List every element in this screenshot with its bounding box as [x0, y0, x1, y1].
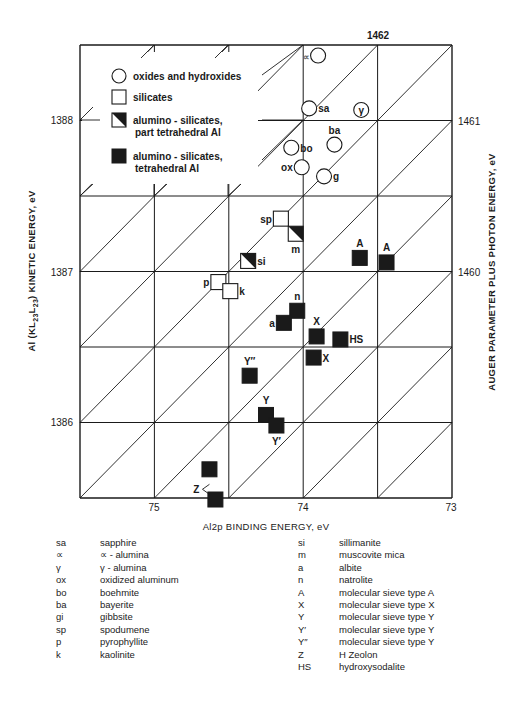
- data-point-label: sa: [318, 103, 330, 114]
- circle-marker-icon: [327, 137, 342, 152]
- filled-square-marker-icon: [276, 315, 291, 330]
- y-axis-label: Al (KL23L23) KINETIC ENERGY, eV: [26, 190, 39, 351]
- data-point-label: g: [333, 171, 339, 182]
- abbreviation-name: molecular sieve type X: [339, 599, 435, 611]
- abbreviation-code: Y: [298, 611, 339, 623]
- grid-stub: [262, 45, 303, 75]
- circle-marker-icon: [294, 160, 309, 175]
- circle-marker-icon: [112, 69, 126, 83]
- abbreviation-code: γ: [56, 562, 100, 574]
- abbreviation-list-right: sisillimanitemmuscovite micaaalbitennatr…: [298, 537, 435, 673]
- data-point: A: [379, 242, 394, 270]
- abbreviation-name: molecular sieve type Y: [339, 624, 434, 636]
- data-point: k: [223, 284, 246, 299]
- abbreviation-name: albite: [339, 562, 362, 574]
- x-tick-74: 74: [297, 502, 309, 513]
- data-point: sp: [260, 211, 288, 226]
- abbreviation-name: molecular sieve type Y: [339, 636, 434, 648]
- grid-stub: [228, 184, 241, 196]
- data-point: Y′: [269, 418, 284, 447]
- abbreviation-code: k: [56, 649, 100, 661]
- abbreviation-code: Z: [298, 649, 339, 661]
- filled-square-marker-icon: [202, 462, 217, 477]
- auger-parameter-line: [303, 121, 377, 197]
- auger-parameter-line: [378, 121, 452, 197]
- abbreviation-code: a: [298, 562, 339, 574]
- y-tick-1388: 1388: [51, 115, 74, 126]
- y2-axis-label: AUGER PARAMETER PLUS PHOTON ENERGY, eV: [486, 153, 497, 391]
- abbreviation-row: mmuscovite mica: [298, 549, 435, 561]
- data-point-label: si: [257, 256, 266, 267]
- data-point-label: γ: [358, 105, 364, 116]
- abbreviation-code: A: [298, 587, 339, 599]
- data-point-label: Z: [193, 484, 199, 495]
- abbreviation-row: Xmolecular sieve type X: [298, 599, 435, 611]
- data-point-label: ∝: [303, 52, 309, 62]
- data-point: X: [309, 316, 324, 344]
- abbreviation-row: ∝∝ - alumina: [56, 549, 179, 561]
- legend-label: oxides and hydroxides: [133, 71, 242, 82]
- auger-parameter-line: [154, 347, 228, 423]
- data-point-label: sp: [260, 214, 272, 225]
- auger-1460-label: 1460: [458, 267, 481, 278]
- data-point: [208, 492, 223, 507]
- grid-stub: [154, 184, 167, 196]
- data-point-label: HS: [349, 334, 363, 345]
- abbreviation-name: spodumene: [100, 624, 150, 636]
- abbreviation-row: ppyrophyllite: [56, 636, 179, 648]
- abbreviation-name: γ - alumina: [100, 562, 146, 574]
- data-point-label: X: [313, 316, 320, 327]
- abbreviation-name: gibbsite: [100, 611, 133, 623]
- circle-marker-icon: [317, 169, 332, 184]
- abbreviation-name: molecular sieve type A: [339, 587, 434, 599]
- data-point: g: [317, 169, 340, 184]
- data-point-label: k: [239, 286, 245, 297]
- auger-1461-label: 1461: [458, 116, 481, 127]
- filled-square-marker-icon: [290, 303, 305, 318]
- data-point: bo: [284, 140, 313, 155]
- abbreviation-row: boboehmite: [56, 587, 179, 599]
- abbreviation-row: Y′molecular sieve type Y: [298, 624, 435, 636]
- grid-stub: [262, 120, 303, 160]
- abbreviation-row: Y″molecular sieve type Y: [298, 636, 435, 648]
- data-point: γ: [354, 102, 369, 117]
- auger-parameter-line: [378, 423, 452, 499]
- filled-square-marker-icon: [379, 255, 394, 270]
- abbreviation-row: γγ - alumina: [56, 562, 179, 574]
- data-point: ∝: [303, 48, 326, 63]
- abbreviation-name: boehmite: [100, 587, 139, 599]
- open-square-marker-icon: [273, 211, 288, 226]
- abbreviation-row: nnatrolite: [298, 574, 435, 586]
- open-square-marker-icon: [112, 90, 126, 104]
- circle-marker-icon: [284, 140, 299, 155]
- filled-square-marker-icon: [352, 250, 367, 265]
- abbreviation-name: hydroxysodalite: [339, 661, 405, 673]
- filled-square-marker-icon: [306, 350, 321, 365]
- circle-marker-icon: [302, 101, 317, 116]
- legend-label: alumino - silicates,: [133, 115, 223, 126]
- abbreviation-row: sisillimanite: [298, 537, 435, 549]
- abbreviation-row: HShydroxysodalite: [298, 661, 435, 673]
- auger-parameter-line: [80, 347, 154, 423]
- abbreviation-name: ∝ - alumina: [100, 549, 149, 561]
- data-point-label: a: [269, 318, 275, 329]
- data-point-label: p: [203, 277, 209, 288]
- abbreviation-code: p: [56, 636, 100, 648]
- abbreviation-name: natrolite: [339, 574, 373, 586]
- data-point: si: [241, 253, 266, 268]
- abbreviation-name: bayerite: [100, 599, 134, 611]
- abbreviation-code: n: [298, 574, 339, 586]
- abbreviation-row: Ymolecular sieve type Y: [298, 611, 435, 623]
- data-point-label: m: [291, 244, 300, 255]
- y-tick-1386: 1386: [51, 417, 74, 428]
- y-tick-1387: 1387: [51, 267, 74, 278]
- auger-parameter-line: [154, 196, 228, 272]
- data-point: m: [288, 226, 303, 255]
- abbreviation-code: gi: [56, 611, 100, 623]
- data-point: n: [290, 291, 305, 319]
- data-point: Z: [193, 462, 217, 496]
- abbreviation-code: ∝: [56, 549, 100, 561]
- data-point-label: A: [356, 238, 363, 249]
- abbreviation-name: pyrophyllite: [100, 636, 148, 648]
- auger-parameter-line: [229, 423, 303, 499]
